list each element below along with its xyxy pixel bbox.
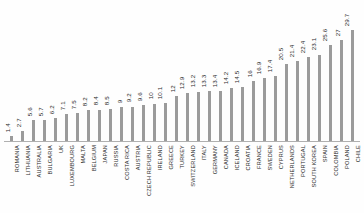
bar-value-label: 21.4 [288,45,294,57]
bar[interactable] [120,107,123,141]
bar[interactable] [32,120,35,141]
category-slot: AUSTRIA [127,143,138,211]
bar[interactable] [21,131,24,141]
category-slot: AUSTRALIA [28,143,39,211]
category-slot: CANADA [215,143,226,211]
category-slot: LITHUANIA [17,143,28,211]
bar[interactable] [230,88,233,141]
bar-value-label: 14.2 [222,71,228,83]
bar-value-label: 7.1 [59,102,65,111]
bar-slot: 22.4 [303,6,314,141]
bar[interactable] [131,107,134,141]
category-slot: BELGIUM [83,143,94,211]
category-slot: COSTA RICA [116,143,127,211]
bar-slot: 9 [116,6,127,141]
category-slot: SPAIN [314,143,325,211]
bar-slot: 21.4 [292,6,303,141]
bar-slot: 9.2 [127,6,138,141]
bar-slot: 10.1 [160,6,171,141]
category-slot: CYPRUS [270,143,281,211]
bar-value-label: 9.6 [136,92,142,101]
category-slot: UK [50,143,61,211]
bar-value-label: 13.3 [200,75,206,87]
bar[interactable] [186,93,189,141]
bar-value-label: 5.7 [37,107,43,116]
bar-slot: 10 [149,6,160,141]
category-slot: CROATIA [237,143,248,211]
bar-value-label: 8.2 [81,97,87,106]
bar-value-label: 12.9 [178,76,184,88]
bar-slot: 9.6 [138,6,149,141]
bar[interactable] [285,64,288,141]
category-slot: FRANCE [248,143,259,211]
bar-value-label: 13.2 [189,75,195,87]
bar-value-label: 22.4 [299,41,305,53]
bar-value-label: 16 [247,70,253,77]
bar[interactable] [252,81,255,141]
bar-value-label: 23.1 [310,38,316,50]
bar[interactable] [351,30,354,141]
bar[interactable] [329,45,332,141]
bar[interactable] [109,109,112,141]
bar-slot: 17.4 [270,6,281,141]
category-slot: JAPAN [94,143,105,211]
bar-slot: 8.2 [83,6,94,141]
bar[interactable] [153,104,156,141]
bar[interactable] [98,110,101,141]
bar-value-label: 6.2 [48,105,54,114]
bar[interactable] [142,105,145,141]
bar-slot: 7.5 [72,6,83,141]
category-slot: ICELAND [226,143,237,211]
bar[interactable] [54,118,57,141]
bar[interactable] [175,96,178,141]
bar[interactable] [219,91,222,141]
bar[interactable] [43,120,46,141]
bar-slot: 25.6 [325,6,336,141]
category-slot: POLAND [336,143,347,211]
bar[interactable] [197,92,200,141]
bar-value-label: 13.4 [211,74,217,86]
category-slot: GERMANY [204,143,215,211]
category-slot: GREECE [160,143,171,211]
bar-slot: 8.5 [105,6,116,141]
category-slot: PORTUGAL [292,143,303,211]
category-slot: MALTA [72,143,83,211]
bar-value-label: 1.4 [4,123,10,132]
bar-slot: 16.9 [259,6,270,141]
bar[interactable] [164,103,167,141]
bar-value-label: 5.6 [26,107,32,116]
bar[interactable] [340,40,343,141]
bar[interactable] [76,113,79,141]
category-slot: NETHERLANDS [281,143,292,211]
bar-slot: 6.2 [50,6,61,141]
bar-slot: 2.7 [17,6,28,141]
category-slot: LUXEMBOURG [61,143,72,211]
bar-value-label: 7.5 [70,100,76,109]
bar-value-label: 10.1 [156,87,162,99]
category-slot: CHILE [347,143,358,211]
bar-value-label: 16.9 [255,61,261,73]
bar[interactable] [274,76,277,141]
bar-value-label: 9.2 [125,94,131,103]
bar[interactable] [87,110,90,141]
bar-slot: 5.6 [28,6,39,141]
bar[interactable] [318,55,321,141]
bar-slot: 13.3 [204,6,215,141]
bar-slot: 29.7 [347,6,358,141]
bar-slot: 7.1 [61,6,72,141]
category-slot: IRELAND [149,143,160,211]
bar[interactable] [241,87,244,141]
bar[interactable] [208,91,211,141]
category-axis: ROMANIALITHUANIAAUSTRALIABULGARIAUKLUXEM… [6,143,358,211]
bar-value-label: 9 [117,100,123,104]
bar[interactable] [65,114,68,141]
bar[interactable] [263,78,266,141]
bar-value-label: 12 [170,85,176,92]
bar-slot: 12 [171,6,182,141]
bar-value-label: 25.6 [321,29,327,41]
bar[interactable] [296,61,299,141]
category-slot: TURKEY [171,143,182,211]
category-label: CHILE [356,145,362,162]
bar[interactable] [307,57,310,141]
bar-value-label: 27 [335,29,341,36]
